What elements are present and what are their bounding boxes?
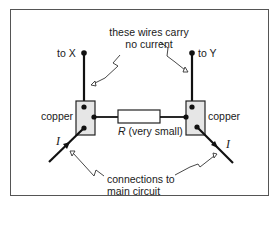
resistor-description: (very small) — [129, 125, 183, 137]
copper-right-top-dot — [189, 104, 194, 109]
top-note: these wires carry no current — [106, 26, 192, 50]
bottom-note-line2: main circuit — [107, 185, 175, 197]
resistor-symbol: R — [118, 125, 126, 137]
terminal-y-dot — [189, 50, 195, 56]
top-note-line2: no current — [106, 38, 192, 50]
leader-arrow-bottom-right-icon — [213, 153, 217, 158]
leader-line-bottom-right — [175, 156, 214, 175]
label-resistor: R (very small) — [118, 125, 183, 137]
label-copper-left: copper — [41, 110, 73, 122]
copper-left-top-dot — [81, 104, 86, 109]
leader-line-top-left — [93, 55, 120, 84]
label-to-x: to X — [57, 47, 76, 59]
terminal-x-dot — [81, 50, 87, 56]
resistor — [118, 110, 160, 123]
bottom-note-line1: connections to — [107, 173, 175, 185]
top-note-line1: these wires carry — [106, 26, 192, 38]
label-current-right: I — [226, 138, 230, 150]
leader-line-bottom-left — [73, 153, 104, 176]
label-to-y: to Y — [198, 47, 217, 59]
label-copper-right: copper — [208, 110, 240, 122]
leader-arrow-top-right-icon — [183, 67, 188, 72]
copper-block-right — [186, 101, 205, 135]
leader-arrow-top-left-icon — [91, 81, 96, 86]
label-current-left: I — [56, 135, 60, 147]
bottom-note: connections to main circuit — [107, 173, 175, 197]
leader-arrow-bottom-left-icon — [70, 151, 75, 156]
